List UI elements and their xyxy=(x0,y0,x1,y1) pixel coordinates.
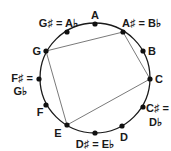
label-c-sharp-2: D♭ xyxy=(149,116,162,128)
dot-c-sharp xyxy=(140,104,145,109)
label-g-sharp: G♯ = A♭ xyxy=(39,17,78,29)
dot-e xyxy=(64,122,69,127)
label-d-sharp: D♯ = E♭ xyxy=(76,138,114,150)
dot-a xyxy=(92,21,97,26)
dot-g xyxy=(43,48,48,53)
label-e: E xyxy=(54,127,61,139)
note-labels: A A♯ = B♭ B C C♯ = D♭ D D♯ = E♭ E F F♯ =… xyxy=(11,9,169,150)
label-a: A xyxy=(91,9,99,21)
label-a-sharp: A♯ = B♭ xyxy=(122,17,161,29)
label-c: C xyxy=(155,73,163,85)
dot-c xyxy=(147,76,152,81)
label-g: G xyxy=(32,45,41,57)
label-b: B xyxy=(148,45,156,57)
note-circle xyxy=(40,23,150,133)
dot-g-sharp xyxy=(64,29,69,34)
chromatic-circle-diagram: A A♯ = B♭ B C C♯ = D♭ D D♯ = E♭ E F F♯ =… xyxy=(0,0,171,151)
label-c-sharp-1: C♯ = xyxy=(146,102,169,114)
label-f: F xyxy=(37,106,44,118)
dot-f xyxy=(43,102,48,107)
dot-f-sharp xyxy=(36,76,41,81)
dot-a-sharp xyxy=(120,29,125,34)
dot-b xyxy=(140,48,145,53)
label-f-sharp-1: F♯ = xyxy=(11,72,33,84)
dot-d-sharp xyxy=(92,130,97,135)
dot-d xyxy=(119,123,124,128)
label-d: D xyxy=(120,131,128,143)
interval-polygon xyxy=(46,32,150,125)
label-f-sharp-2: G♭ xyxy=(13,85,27,97)
